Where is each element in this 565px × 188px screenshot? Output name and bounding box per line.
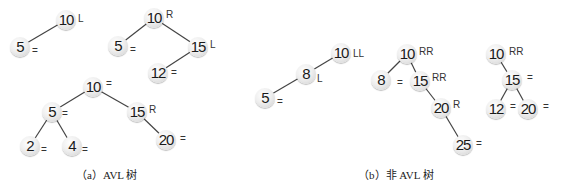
tree-node-a3-10: 10 [83, 77, 103, 97]
balance-factor-label: = [62, 109, 68, 119]
avl-tree-diagram: 10L5=10R5=15L12=10=5=15R2=4=20=10LL8L5=1… [0, 0, 565, 188]
balance-factor-label: L [210, 40, 216, 50]
tree-node-b3-15: 15 [502, 70, 522, 90]
tree-node-b2-10: 10 [397, 44, 417, 64]
balance-factor-label: = [171, 68, 177, 78]
tree-node-a3-4: 4 [62, 136, 82, 156]
balance-factor-label: = [32, 46, 38, 56]
tree-node-b1-5: 5 [255, 88, 275, 108]
tree-node-a3-15: 15 [127, 102, 147, 122]
tree-node-b1-8: 8 [296, 64, 316, 84]
balance-factor-label: = [180, 134, 186, 144]
tree-node-b1-10: 10 [331, 43, 351, 63]
tree-node-a2-12: 12 [148, 63, 168, 83]
tree-node-a2-15: 15 [188, 37, 208, 57]
balance-factor-label: RR [419, 47, 433, 57]
balance-factor-label: = [106, 79, 112, 89]
balance-factor-label: = [277, 97, 283, 107]
tree-node-a1-5: 5 [10, 37, 30, 57]
balance-factor-label: = [397, 78, 403, 88]
balance-factor-label: RR [509, 47, 523, 57]
tree-node-b2-8: 8 [371, 70, 391, 90]
tree-node-a3-2: 2 [20, 136, 40, 156]
caption-non-avl-tree: （b）非 AVL 树 [358, 166, 434, 182]
balance-factor-label: = [527, 73, 533, 83]
balance-factor-label: R [149, 105, 156, 115]
balance-factor-label: R [166, 10, 173, 20]
balance-factor-label: = [41, 145, 47, 155]
balance-factor-label: = [476, 139, 482, 149]
tree-node-a2-5: 5 [108, 36, 128, 56]
balance-factor-label: = [543, 102, 549, 112]
tree-node-b2-25: 25 [453, 135, 473, 155]
tree-node-a3-20: 20 [156, 130, 176, 150]
balance-factor-label: = [130, 45, 136, 55]
tree-edges [0, 0, 565, 188]
caption-avl-tree: （a）AVL 树 [76, 166, 137, 182]
balance-factor-label: R [453, 100, 460, 110]
tree-node-b2-15: 15 [410, 71, 430, 91]
tree-node-a2-10: 10 [144, 8, 164, 28]
tree-node-b3-12: 12 [486, 99, 506, 119]
balance-factor-label: L [317, 74, 323, 84]
balance-factor-label: RR [432, 73, 446, 83]
tree-node-a1-10: 10 [56, 10, 76, 30]
tree-node-b3-20: 20 [518, 99, 538, 119]
tree-node-b3-10: 10 [486, 44, 506, 64]
balance-factor-label: = [510, 102, 516, 112]
balance-factor-label: = [82, 145, 88, 155]
tree-node-a3-5: 5 [42, 102, 62, 122]
balance-factor-label: L [78, 14, 84, 24]
tree-node-b2-20: 20 [431, 98, 451, 118]
balance-factor-label: LL [353, 49, 364, 59]
